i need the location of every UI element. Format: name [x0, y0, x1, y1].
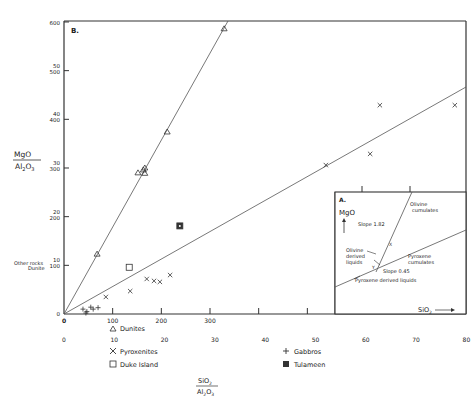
y-axis-label: MgO Al2O3	[13, 150, 41, 172]
x-tick-label-lower: 30	[211, 336, 219, 343]
legend: Dunites Pyroxenites Duke Island Gabbros …	[110, 325, 325, 369]
inset-pyroxene-liquids: Pyroxene derived liquids	[355, 277, 417, 284]
plus-marker-icon	[283, 348, 289, 354]
legend-item-duke-island: Duke Island	[110, 361, 158, 369]
legend-label-tulameen: Tulameen	[293, 361, 325, 369]
x-tick-label-lower: 40	[261, 336, 269, 343]
y-tick-label-inner: 10	[53, 257, 60, 263]
y-tick-label: 200	[50, 215, 61, 221]
legend-label-pyroxenites: Pyroxenites	[120, 348, 158, 356]
y-label-numerator: MgO	[14, 150, 31, 159]
x-axis-ticks	[113, 192, 335, 314]
x-tick-label-upper: 0	[62, 317, 66, 324]
square-marker-icon	[110, 361, 116, 367]
y-tick-label: 100	[50, 263, 61, 269]
pyroxenites-point	[104, 295, 108, 299]
y-tick-label: 400	[50, 117, 61, 123]
legend-label-dunites: Dunites	[120, 325, 146, 333]
duke-island-point	[126, 264, 132, 270]
inset-panel: A. MgO Olivine cumulates Slope 1.82 X Ol…	[335, 186, 466, 315]
dunites-point	[135, 170, 141, 175]
x-tick-label-lower: 20	[161, 336, 169, 343]
y-tick-label-inner: 20	[53, 209, 60, 215]
gabbros-point	[80, 307, 85, 312]
y-label-denominator: Al2O3	[15, 162, 35, 172]
y-tick-label-inner: 50	[53, 63, 60, 69]
x-tick-label-upper: 100	[107, 317, 119, 324]
inset-point-y: Y	[371, 265, 375, 270]
y-tick-label: 600	[50, 20, 61, 26]
pyroxenites-point	[368, 152, 372, 156]
y-tick-label: 300	[50, 166, 61, 172]
inset-slope-1: Slope 1.82	[358, 221, 385, 228]
x-tick-label-lower: 80	[463, 336, 471, 343]
legend-label-duke-island: Duke Island	[120, 361, 158, 369]
triangle-marker-icon	[110, 326, 116, 331]
inset-pyroxene-cumulates-2: cumulates	[408, 259, 434, 265]
x-tick-label-upper: 200	[156, 317, 168, 324]
x-tick-label-lower: 0	[62, 336, 66, 343]
x-tick-label-lower: 60	[362, 336, 370, 343]
x-axis-label: SiO2 Al2O3	[196, 377, 218, 397]
inset-olivine-liquids-3: liquids	[346, 259, 363, 266]
legend-item-gabbros: Gabbros	[283, 348, 322, 356]
legend-label-gabbros: Gabbros	[294, 348, 322, 356]
dunite-label: Dunite	[28, 265, 45, 271]
pyroxenites-point	[158, 280, 162, 284]
pyroxenites-point	[378, 103, 382, 107]
chart-canvas: 01001020020300304004050050600 0100200300…	[0, 0, 475, 405]
y-tick-label-inner: 30	[53, 160, 60, 166]
legend-item-pyroxenites: Pyroxenites	[110, 348, 158, 356]
x-label-denominator: Al2O3	[197, 388, 214, 397]
x-marker-icon	[110, 348, 116, 354]
pyroxenites-point	[145, 277, 149, 281]
legend-item-tulameen: Tulameen	[283, 361, 325, 369]
y-tick-label: 0	[57, 311, 61, 317]
x-tick-label-lower: 70	[412, 336, 420, 343]
inset-label: A.	[339, 196, 346, 203]
gabbros-point	[96, 305, 101, 310]
y-tick-label-inner: 40	[53, 111, 60, 117]
tulameen-point	[177, 223, 183, 229]
panel-label: B.	[71, 27, 79, 35]
y-axis-tick-labels: 01001020020300304004050050600	[50, 20, 61, 317]
x-tick-label-lower: 10	[110, 336, 118, 343]
filled-square-marker-icon	[283, 361, 289, 367]
pyroxenites-point	[168, 273, 172, 277]
inset-olivine-cumulates-2: cumulates	[412, 207, 438, 213]
inset-point-x: X	[389, 242, 392, 247]
pyroxenites-point	[152, 279, 156, 283]
inset-slope-2: Slope 0.45	[383, 268, 410, 275]
legend-item-dunites: Dunites	[110, 325, 146, 333]
x-label-numerator: SiO2	[198, 377, 212, 386]
y-axis-ticks	[64, 22, 69, 265]
dunites-point	[164, 129, 170, 134]
x-tick-label-lower: 50	[312, 336, 320, 343]
inset-mgo-label: MgO	[339, 209, 355, 217]
y-tick-label: 500	[50, 69, 61, 75]
pyroxenites-point	[453, 103, 457, 107]
pyroxenites-point	[128, 289, 132, 293]
x-tick-label-upper: 300	[204, 317, 216, 324]
